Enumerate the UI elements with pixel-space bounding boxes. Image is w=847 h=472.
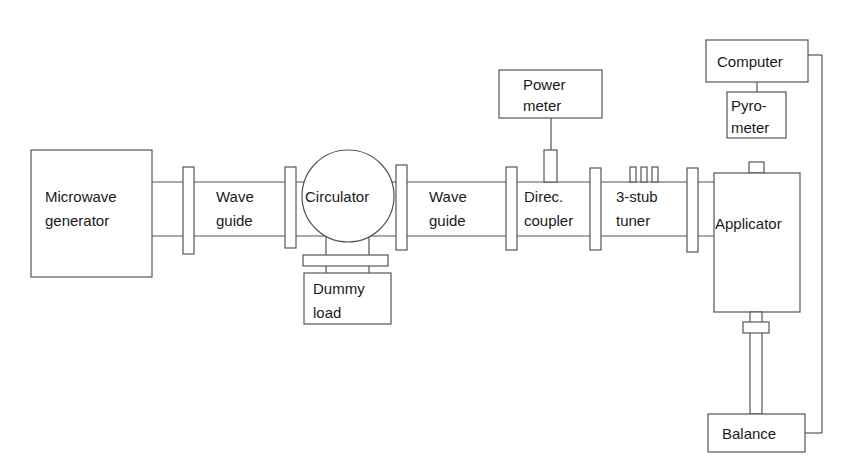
dummy-load-label-line2: load [313,304,341,321]
pyrometer-label-line2: meter [731,119,769,136]
waveguide1-label-line2: guide [216,212,253,229]
microwave-generator-block: Microwave generator [31,150,152,277]
tuner-label-line2: tuner [616,212,650,229]
applicator-shaft-collar [743,322,769,333]
circulator-label: Circulator [305,188,369,205]
power-meter-block: Power meter [499,70,602,182]
stub-1 [630,167,636,182]
waveguide2-label-line2: guide [429,212,466,229]
tuner-label-line1: 3-stub [616,188,658,205]
applicator-label: Applicator [715,215,782,232]
power-meter-label-line2: meter [523,97,561,114]
waveguide-1: Wave guide [216,188,254,229]
pyrometer-label-line1: Pyro- [731,97,767,114]
waveguide2-label-line1: Wave [429,188,467,205]
flange-5 [590,168,601,250]
flange-2 [285,167,296,248]
stub-2 [641,167,647,182]
balance-label: Balance [722,425,776,442]
balance-block: Balance [708,414,805,452]
waveguide1-label-line1: Wave [216,188,254,205]
applicator-top-knob [749,162,764,173]
flange-4 [506,167,517,250]
flanges [183,165,698,254]
stub-3 [652,167,658,182]
power-meter-label-line1: Power [523,76,566,93]
coupler-label-line2: coupler [524,212,573,229]
computer-label: Computer [717,53,783,70]
microwave-heating-setup-diagram: Microwave generator Wave guide Circulato… [0,0,847,472]
flange-6 [687,168,698,252]
three-stub-tuner: 3-stub tuner [616,167,658,229]
dummy-load-flange [303,255,388,266]
dummy-load-label-line1: Dummy [313,280,365,297]
coupler-label-line1: Direc. [524,188,563,205]
dummy-load-block: Dummy load [303,255,391,324]
circulator-block: Circulator [302,150,394,255]
flange-1 [183,167,194,254]
generator-label-line1: Microwave [45,188,117,205]
applicator-block: Applicator [714,162,800,414]
directional-coupler: Direc. coupler [524,188,573,229]
flange-3 [396,165,407,250]
waveguide-2: Wave guide [429,188,467,229]
generator-label-line2: generator [45,212,109,229]
pyrometer-block: Pyro- meter [727,92,786,138]
coupler-probe [544,150,557,182]
